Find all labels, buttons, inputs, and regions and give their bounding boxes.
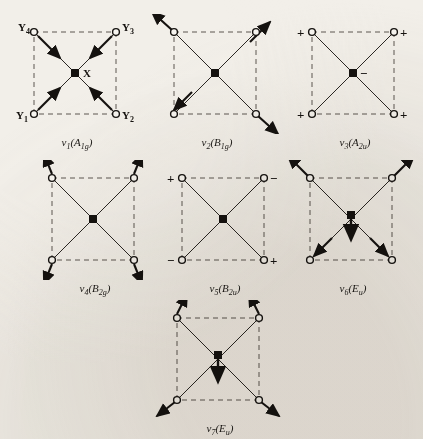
mode-diagram-v3: + + + + − ν3(A2u) [290, 14, 420, 154]
mode-v2-svg [152, 14, 282, 134]
mode-v3-svg: + + + + − [290, 14, 420, 134]
sign-bottom-right: + [400, 107, 407, 122]
mode-diagram-v7: ν7(Eu) [155, 300, 285, 439]
mode-v5-svg: + − − + [160, 160, 290, 280]
sign-center: − [360, 66, 367, 81]
mode-label-v3: ν3(A2u) [290, 136, 420, 151]
ligand-label-y1: Y1 [16, 109, 28, 124]
mode-label-v2: ν2(B1g) [152, 136, 282, 151]
central-atom [347, 211, 355, 219]
ligand-label-y4: Y4 [18, 21, 30, 36]
mode-label-v4: ν4(B2g) [30, 282, 160, 297]
central-atom [89, 215, 97, 223]
mode-diagram-v1: Y4 Y3 Y1 Y2 X ν1(A1g) [12, 14, 142, 154]
mode-diagram-v5: + − − + ν5(B2u) [160, 160, 290, 300]
ligand-label-y2: Y2 [122, 109, 134, 124]
mode-v6-svg [288, 160, 418, 280]
central-atom [214, 351, 222, 359]
vibrational-modes-figure: Y4 Y3 Y1 Y2 X ν1(A1g) [0, 0, 423, 439]
sign-top-left: + [297, 25, 304, 40]
mode-v4-svg [30, 160, 160, 280]
central-atom-label: X [83, 67, 91, 79]
mode-label-v1: ν1(A1g) [12, 136, 142, 151]
sign-top-right: − [270, 171, 277, 186]
displacement-arrows [288, 160, 414, 256]
mode-diagram-v6: ν6(Eu) [288, 160, 418, 300]
central-atom [211, 69, 219, 77]
mode-diagram-v4: ν4(B2g) [30, 160, 160, 300]
sign-top-left: + [167, 171, 174, 186]
mode-label-v5: ν5(B2u) [160, 282, 290, 297]
mode-v1-svg: Y4 Y3 Y1 Y2 X [12, 14, 142, 134]
mode-label-v7: ν7(Eu) [155, 422, 285, 437]
sign-bottom-right: + [270, 253, 277, 268]
mode-diagram-v2: ν2(B1g) [152, 14, 282, 154]
sign-bottom-left: + [297, 107, 304, 122]
mode-label-v6: ν6(Eu) [288, 282, 418, 297]
ligand-label-y3: Y3 [122, 21, 134, 36]
central-atom [349, 69, 357, 77]
mode-v7-svg [155, 300, 285, 420]
sign-top-right: + [400, 25, 407, 40]
central-atom [219, 215, 227, 223]
sign-bottom-left: − [167, 253, 174, 268]
central-atom [71, 69, 79, 77]
